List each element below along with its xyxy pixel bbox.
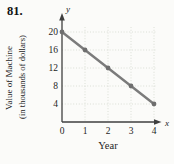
y-axis-arrow-icon <box>59 13 65 21</box>
data-point <box>129 84 134 89</box>
data-point <box>152 102 157 107</box>
x-axis-arrow-icon <box>154 119 162 125</box>
y-axis-letter: y <box>65 4 70 14</box>
x-tick-label: 4 <box>152 126 157 136</box>
x-tick-label: 1 <box>83 126 88 136</box>
y-axis-title-line1: Value of Machine <box>4 46 14 110</box>
data-point <box>60 30 65 35</box>
y-tick-labels: 48121620 <box>49 27 59 109</box>
data-point <box>83 48 88 53</box>
x-tick-label: 0 <box>60 126 65 136</box>
y-tick-label: 20 <box>49 27 59 37</box>
x-tick-label: 3 <box>129 126 134 136</box>
y-tick-label: 16 <box>49 45 59 55</box>
x-tick-label: 2 <box>106 126 111 136</box>
y-tick-label: 4 <box>53 99 58 109</box>
gridlines <box>62 27 157 122</box>
x-axis-letter: x <box>164 118 169 128</box>
y-axis-title-line2: (in thousands of dollars) <box>17 35 27 119</box>
y-tick-label: 12 <box>49 63 59 73</box>
textbook-figure: y x 01234 48121620 Value of Machine (in … <box>0 0 174 164</box>
x-tick-labels: 01234 <box>60 126 157 136</box>
line-chart: y x 01234 48121620 Value of Machine (in … <box>0 0 174 164</box>
x-axis-title: Year <box>98 140 118 151</box>
data-point <box>106 66 111 71</box>
problem-number: 81. <box>7 4 23 18</box>
y-tick-label: 8 <box>53 81 58 91</box>
